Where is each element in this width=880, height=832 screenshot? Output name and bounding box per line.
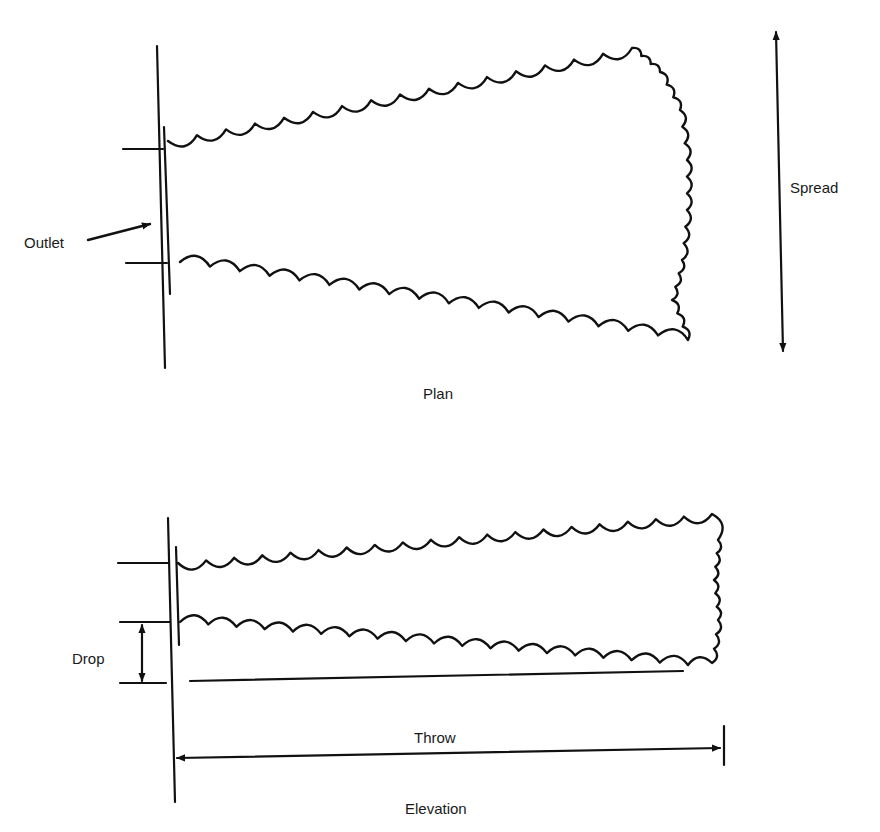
elevation-caption: Elevation [405, 801, 467, 816]
plan-air-plume-outline [168, 48, 692, 340]
elevation-air-plume-outline [178, 514, 723, 665]
elevation-view [118, 514, 724, 802]
drop-reference-right [190, 671, 683, 681]
drop-label: Drop [72, 651, 105, 666]
plan-view [88, 32, 783, 368]
spread-arrow [776, 32, 783, 351]
outlet-pointer-arrow [88, 224, 150, 240]
elevation-outlet-face [176, 547, 179, 645]
diagram-drawing [0, 0, 880, 832]
plan-outlet-face [164, 127, 170, 294]
plan-wall-line [157, 46, 165, 368]
throw-label: Throw [414, 730, 456, 745]
throw-arrow [177, 748, 720, 758]
elevation-wall-line [168, 518, 175, 802]
outlet-label: Outlet [24, 235, 64, 250]
diagram-canvas: Outlet Spread Plan Drop Throw Elevation [0, 0, 880, 832]
spread-label: Spread [790, 180, 838, 195]
plan-caption: Plan [423, 386, 453, 401]
